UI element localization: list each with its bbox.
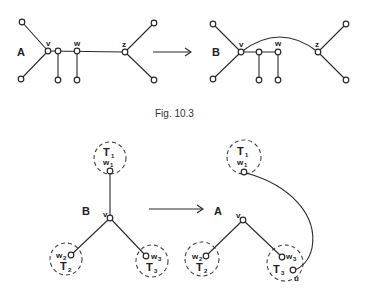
top-graph-a: A v w z [17,19,157,83]
label-t1: T [103,146,110,158]
label-v: v [236,211,241,220]
top-graph-b: B v w z [210,21,349,83]
leaf-node [343,77,349,83]
label-t2: T [196,261,203,273]
leaf-node [343,21,349,27]
label-z: z [315,40,319,49]
label-v: v [239,40,244,49]
node [256,49,262,55]
bottom-graph-a: A v u T 1 w 1 w 2 T 2 w 3 T 3 [185,140,313,283]
leaf-node [55,77,61,83]
label-w3: w [150,252,158,261]
svg-text:1: 1 [245,152,249,158]
label-t3: T [273,263,280,275]
node-z [315,49,321,55]
node-w [275,49,281,55]
figure-caption: Fig. 10.3 [155,108,194,119]
leaf-node [151,20,157,26]
svg-text:2: 2 [204,268,208,274]
bottom-arrow-icon [149,205,203,213]
node-v [240,217,246,223]
node-w2 [68,252,74,258]
svg-text:3: 3 [293,256,297,262]
top-arrow-icon [153,48,191,56]
svg-text:3: 3 [158,256,162,262]
node-u [290,267,296,273]
label-w: w [73,39,81,48]
node-v [107,215,113,221]
label-w2: w [191,252,199,261]
node-v [45,48,51,54]
svg-text:3: 3 [281,270,285,276]
node-w2 [203,253,209,259]
label-t2: T [60,260,67,272]
node-w [74,48,80,54]
node-v [238,49,244,55]
label-t1: T [237,145,244,157]
svg-text:2: 2 [68,267,72,273]
leaf-node [210,21,216,27]
svg-text:1: 1 [111,153,115,159]
node-z [122,49,128,55]
label-u: u [294,274,299,283]
node-w1 [107,168,113,174]
label-v: v [46,39,51,48]
svg-text:1: 1 [244,162,248,168]
leaf-node [256,77,262,83]
label-w1: w [236,158,244,167]
label-w: w [274,39,282,48]
node-w3 [143,253,149,259]
leaf-node [210,76,216,82]
leaf-node [74,77,80,83]
node-w1 [241,169,247,175]
figure-canvas: A v w z B v w z Fig. 10.3 [0,0,366,304]
graph-label-b: B [82,205,90,217]
leaf-node [19,19,25,25]
label-v: v [103,210,108,219]
label-w3: w [285,252,293,261]
graph-label-a: A [214,205,222,217]
leaf-node [151,77,157,83]
node-w3 [279,254,285,260]
svg-text:1: 1 [110,162,114,168]
svg-text:3: 3 [154,268,158,274]
leaf-node [275,77,281,83]
node [55,48,61,54]
leaf-node [18,76,24,82]
graph-label-b: B [212,46,220,58]
label-t3: T [146,261,153,273]
label-z: z [122,40,126,49]
label-w1: w [102,158,110,167]
graph-label-a: A [17,46,25,58]
label-w2: w [55,251,63,260]
